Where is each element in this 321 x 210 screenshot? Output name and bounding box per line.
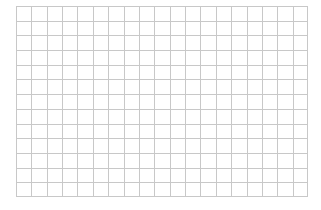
grid-canvas	[16, 6, 308, 197]
